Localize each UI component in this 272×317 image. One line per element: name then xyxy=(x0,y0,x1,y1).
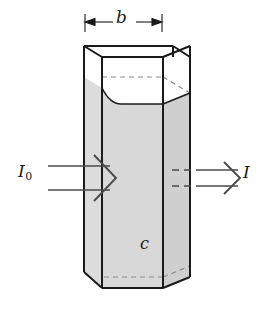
solution-right-face xyxy=(163,93,190,288)
hidden-edge-liquid-surface-right xyxy=(163,77,190,93)
transmitted-beam-arrowhead xyxy=(224,162,240,194)
solution-front-face xyxy=(102,88,163,288)
edge-top-outer-left-diagonal xyxy=(84,46,102,57)
figure-canvas: b c I0 I xyxy=(0,0,272,317)
label-incident-intensity-subscript: 0 xyxy=(25,170,32,183)
label-concentration-c: c xyxy=(140,236,149,252)
label-transmitted-intensity: I xyxy=(243,164,250,181)
label-incident-intensity-symbol: I xyxy=(18,161,25,181)
dimension-arrowhead-right xyxy=(152,19,162,26)
solution-fill-group xyxy=(84,77,190,288)
label-incident-intensity: I0 xyxy=(18,163,32,182)
label-path-length-b: b xyxy=(116,9,127,26)
dimension-arrowhead-left xyxy=(85,19,95,26)
solution-left-face xyxy=(84,77,102,288)
cuvette-diagram xyxy=(0,0,272,317)
